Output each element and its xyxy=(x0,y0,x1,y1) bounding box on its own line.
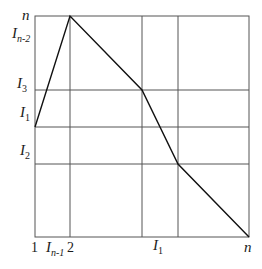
y-label-I3: I3 xyxy=(16,75,27,94)
x-label-I-n-1: In-1 xyxy=(45,239,64,258)
permutation-diagram: n In-2 I3 I1 I2 1 In-1 2 I1 n xyxy=(0,0,262,269)
x-label-1: 1 xyxy=(31,240,38,255)
x-label-n: n xyxy=(244,239,252,255)
x-label-2: 2 xyxy=(67,240,74,255)
y-label-n: n xyxy=(22,7,30,23)
y-label-I-n-2: In-2 xyxy=(11,25,30,44)
y-label-I2: I2 xyxy=(19,142,30,161)
x-label-I1: I1 xyxy=(152,237,163,256)
y-label-I1: I1 xyxy=(19,104,30,123)
